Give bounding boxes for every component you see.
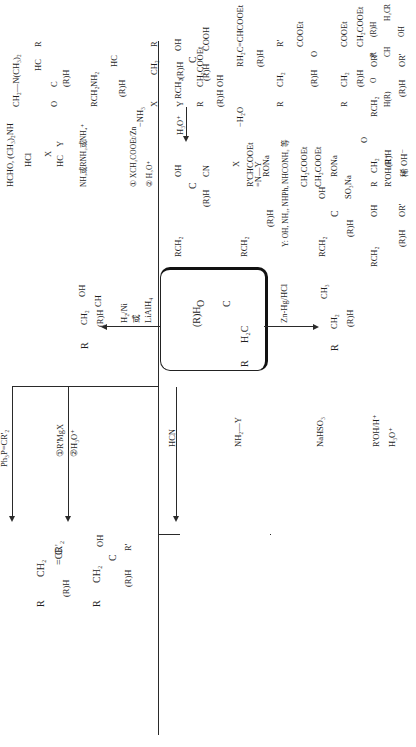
grignard-R: R xyxy=(92,600,102,607)
hydroxyacid-RCH2: RCH₂ xyxy=(174,79,183,99)
stobbe-COOEt: COOEt xyxy=(340,22,349,48)
darzens-reagent-2: RONa xyxy=(262,155,271,177)
aldol-product-Rsub: R xyxy=(370,52,378,57)
acetal-RH: (R)H xyxy=(398,80,407,97)
epoxyester-RH: (R)H xyxy=(310,70,319,87)
enamine-Y: Y xyxy=(176,101,185,107)
grignard-reagent-2: ②H₃O⁺ xyxy=(70,429,79,457)
cyanohydrin-RCH2: RCH₂ xyxy=(174,237,183,257)
wittig-R: R xyxy=(36,600,46,607)
bisulfite-RCH2: RCH₂ xyxy=(318,237,327,257)
wittig-arrow xyxy=(12,387,13,517)
aldol-product-R: R xyxy=(384,4,392,9)
hemiacetal-RH: (R)H xyxy=(398,230,407,247)
trunk-up xyxy=(158,534,180,535)
imine-RCH2: RCH₂ xyxy=(240,237,249,257)
wittig-alkene: =CR'₂ xyxy=(54,541,64,565)
reformatsky-reagent-2: ② H₃O⁺ xyxy=(146,161,154,187)
acetal-OR2: OR' xyxy=(398,54,407,67)
bisulfite-OH: OH xyxy=(318,187,327,199)
stobbe-RH: (R)H xyxy=(356,70,365,87)
alcohol-CH: CH xyxy=(94,295,103,307)
aldol-product-O: O xyxy=(370,78,378,83)
box-to-top xyxy=(158,371,159,387)
hemiacetal-OH: OH xyxy=(370,205,379,217)
imine-RH: (R)H xyxy=(266,210,275,227)
deamination-reagent: −NH₃ xyxy=(136,107,145,127)
mannich-reagent-1: HCHO, (CH₃)₂NH xyxy=(6,123,15,187)
wittig-RH: (R)H xyxy=(62,580,71,597)
mannich-RH: (R)H xyxy=(62,70,71,87)
alkane-R: R xyxy=(330,344,340,351)
mannich-CH2N: CH₂—N(CH₃)₂ xyxy=(12,54,21,107)
trunk-down xyxy=(270,534,271,535)
hemiacetal-RCH2: RCH₂ xyxy=(370,247,379,267)
stobbe-CH2: CH₂ xyxy=(340,72,349,87)
box-to-bottom xyxy=(158,251,159,271)
reduction-arrow xyxy=(106,326,160,327)
clemmensen-reagent: Zn-Hg/HCl xyxy=(280,284,289,323)
reduction-reagent-3: LiAlH₄ xyxy=(144,298,153,323)
hydrolysis-arrow xyxy=(186,107,187,137)
alkane-CH3: CH₃ xyxy=(320,284,329,299)
aminoalcohol-NH2: NH₂ xyxy=(90,72,99,87)
dehydration-reagent: −H₂O xyxy=(236,107,245,127)
cyanohydrin-OH: OH xyxy=(174,165,183,177)
aminoalcohol-RCH2: RCH₂ xyxy=(90,87,99,107)
epoxyester-COOEt: COOEt xyxy=(296,22,305,48)
clemmensen-arrow xyxy=(264,326,314,327)
unsat-ester-RH2C: RH₂C xyxy=(236,47,245,67)
hydroxyacid-OH: OH xyxy=(174,39,183,51)
hydroxyester-CH2COOEt: CH₂COOEt xyxy=(196,47,205,87)
epoxyester-R: R xyxy=(276,101,285,107)
amination-reagent-2: NH₃或RNH₂或NH₄⁺ xyxy=(80,124,88,187)
wittig-line xyxy=(12,386,158,387)
bisulfite-RH: (R)H xyxy=(346,220,355,237)
cyanohydrin-CN: CN xyxy=(202,165,211,177)
cyanohydrin-reagent: HCN xyxy=(168,429,177,447)
aldol-reagent-CH2: CH₂ xyxy=(370,158,379,173)
center-CH2: H₂C xyxy=(240,326,250,343)
hydroxyester-R: R xyxy=(196,101,205,107)
enamine-CH2: CH₂ xyxy=(150,60,159,75)
aldol-product-RH: (R)H xyxy=(370,22,378,37)
mannich-C: C xyxy=(50,81,59,87)
acetal-reagent-fwd: R'OH/H⁺ xyxy=(372,415,381,447)
top-branch-line xyxy=(158,387,159,735)
grignard-Rp: R' xyxy=(124,544,133,551)
bisulfite-C: C xyxy=(330,210,340,217)
grignard-reagent-1: ①R'MgX xyxy=(56,424,65,457)
alcohol-CH2: CH₂ xyxy=(80,310,89,325)
mannich-O: O xyxy=(50,101,59,107)
stobbe-R: R xyxy=(340,101,349,107)
cyanohydrin-C: C xyxy=(188,182,198,189)
aldol-product-H2C: H₂C xyxy=(384,8,392,21)
bisulfite-reagent: NaHSO₃ xyxy=(316,417,325,447)
grignard-C: C xyxy=(108,554,118,561)
hydroxyester-OH: OH xyxy=(216,75,225,87)
epoxyester-O: O xyxy=(310,51,319,57)
wittig-CH2: CH₂ xyxy=(36,560,46,577)
alkane-RH: (R)H xyxy=(346,310,355,327)
epoxyester-CH2: CH₂ xyxy=(276,72,285,87)
cyanohydrin-RH: (R)H xyxy=(202,190,211,207)
aldol-reagent-O: O xyxy=(360,137,369,143)
enamine-X: X xyxy=(150,101,159,107)
stobbe-reagent-2: CH₂COOEt xyxy=(314,147,323,187)
hydrolysis-reagent: H₃O⁺ xyxy=(176,115,185,135)
stobbe-CH2COOEt: CH₂COOEt xyxy=(356,7,365,47)
cyanohydrin-arrow xyxy=(176,387,177,517)
grignard-RH: (R)H xyxy=(124,570,133,587)
aminoalcohol-HC: HC xyxy=(110,55,119,67)
mannich-reagent-2: HCl xyxy=(24,153,33,167)
hemiacetal-ORp: OR' xyxy=(398,204,407,217)
stobbe-reagent-1: CH₂COOEt xyxy=(300,147,309,187)
alcohol-OH: OH xyxy=(78,285,87,297)
imine-reagent: NH₂—Y xyxy=(234,417,243,447)
aldol-product-HR: H(R) xyxy=(384,92,392,107)
aldol-cond: 稀 OH⁻ xyxy=(400,149,409,177)
bottom-branch-line xyxy=(158,41,159,373)
epoxyester-Rp: R' xyxy=(276,40,285,47)
alcohol-R: R xyxy=(80,342,90,349)
grignard-CH2: CH₂ xyxy=(92,566,102,583)
